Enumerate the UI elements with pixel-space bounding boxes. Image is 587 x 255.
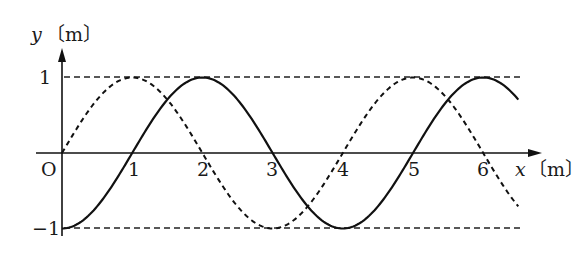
y-axis-label: y — [30, 23, 42, 45]
y-axis-unit: 〔m〕 — [46, 23, 102, 45]
y-tick-1: 1 — [39, 66, 51, 88]
origin-label: O — [41, 158, 57, 180]
x-tick-3: 3 — [266, 158, 278, 180]
x-tick-5: 5 — [408, 158, 420, 180]
y-axis-arrow-icon — [58, 48, 66, 62]
y-tick-minus-1: −1 — [32, 217, 60, 239]
x-axis-arrow-icon — [528, 149, 542, 157]
x-tick-1: 1 — [128, 158, 140, 180]
x-tick-6: 6 — [477, 158, 489, 180]
x-axis-unit: 〔m〕 — [528, 158, 584, 180]
wave-chart: y 〔m〕 1 −1 O 1 2 3 4 5 6 x 〔m〕 — [0, 0, 587, 255]
x-tick-2: 2 — [197, 158, 209, 180]
x-tick-4: 4 — [337, 158, 349, 180]
x-axis-label: x — [515, 158, 526, 180]
